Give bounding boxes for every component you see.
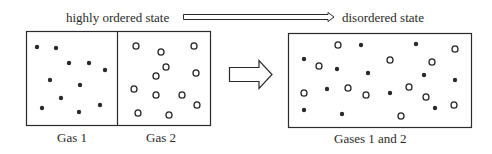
gas2-particle-icon: [451, 102, 457, 108]
gas2-particle-icon: [163, 64, 169, 70]
gas2-particle-icon: [166, 112, 172, 118]
gas1-particle-icon: [78, 83, 82, 87]
gas2-particle-icon: [316, 63, 322, 69]
gas2-particle-icon: [179, 92, 185, 98]
gas1-particle-icon: [48, 78, 52, 82]
gas1-particle-icon: [388, 91, 392, 95]
gas1-particle-icon: [67, 61, 71, 65]
gas2-particle-icon: [452, 46, 458, 52]
transition-arrow-icon: [230, 61, 273, 89]
gas1-particle-icon: [103, 68, 107, 72]
gas2-particle-icon: [193, 70, 199, 76]
gas1-particle-icon: [302, 57, 306, 61]
gas1-particle-icon: [366, 71, 370, 75]
gas1-particle-icon: [87, 61, 91, 65]
gas2-particle-icon: [158, 49, 164, 55]
gas1-particle-icon: [302, 108, 306, 112]
gas1-particle-icon: [59, 96, 63, 100]
gas1-particle-icon: [422, 73, 426, 77]
gas2-particle-icon: [429, 59, 435, 65]
gas2-particle-icon: [153, 73, 159, 79]
mixed-gases-container: [289, 34, 472, 128]
gas2-particle-icon: [423, 94, 429, 100]
gas2-particle-icon: [345, 85, 351, 91]
gas1-particle-icon: [325, 87, 329, 91]
gas1-particle-icon: [77, 110, 81, 114]
gas2-particle-icon: [335, 42, 341, 48]
gas1-particle-icon: [54, 46, 58, 50]
gas1-particle-icon: [453, 78, 457, 82]
gas1-particle-icon: [40, 106, 44, 110]
gas2-particle-icon: [363, 92, 369, 98]
gas2-particle-icon: [398, 113, 404, 119]
gas2-particle-icon: [133, 43, 139, 49]
gas2-particle-icon: [387, 57, 393, 63]
gas1-particle-icon: [414, 42, 418, 46]
ordered-to-disordered-arrow-icon: [184, 13, 335, 22]
gas1-particle-icon: [98, 103, 102, 107]
gas2-particle-icon: [406, 84, 412, 90]
gas1-particle-icon: [433, 106, 437, 110]
gas1-particle-icon: [335, 67, 339, 71]
gas2-particle-icon: [191, 43, 197, 49]
gas2-particle-icon: [301, 90, 307, 96]
gas2-particle-icon: [194, 102, 200, 108]
separated-gases-container: [27, 32, 211, 126]
gas2-particle-icon: [131, 86, 137, 92]
gas2-particle-icon: [135, 110, 141, 116]
gas1-particle-icon: [35, 45, 39, 49]
entropy-diagram: [0, 0, 492, 154]
gas1-particle-icon: [359, 43, 363, 47]
gas1-particle-icon: [340, 112, 344, 116]
gas2-particle-icon: [153, 92, 159, 98]
